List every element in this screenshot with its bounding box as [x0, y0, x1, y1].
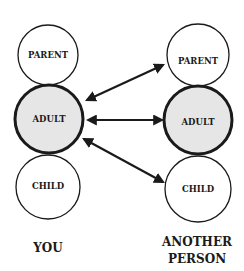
ego-state-other-adult: ADULT: [164, 86, 232, 154]
transaction-arrows: [84, 65, 163, 182]
you-parent-label: PARENT: [28, 50, 69, 60]
double-arrow-icon-adult-to-parent: [87, 65, 163, 100]
ego-state-diagram: PARENT CHILD ADULT YOU PARENT CHILD ADUL…: [0, 0, 244, 271]
ego-state-you-adult: ADULT: [15, 85, 83, 153]
ego-state-you-child: CHILD: [16, 155, 80, 219]
other-parent-label: PARENT: [178, 56, 219, 66]
other-child-label: CHILD: [182, 184, 215, 194]
other-parent-circle: [167, 24, 229, 86]
double-arrow-icon-adult-to-child: [84, 139, 163, 182]
other-column-label-line2: PERSON: [168, 252, 226, 266]
ego-state-other-parent: PARENT: [167, 24, 229, 86]
other-column-label-line1: ANOTHER: [161, 235, 233, 249]
ego-state-you-parent: PARENT: [18, 25, 78, 85]
you-adult-label: ADULT: [32, 114, 67, 124]
you-child-label: CHILD: [32, 181, 65, 191]
ego-state-other-child: CHILD: [165, 156, 231, 222]
column-another-person: PARENT CHILD ADULT ANOTHER PERSON: [161, 24, 233, 266]
other-adult-label: ADULT: [181, 117, 216, 127]
column-you: PARENT CHILD ADULT YOU: [15, 25, 83, 255]
you-column-label: YOU: [32, 241, 63, 255]
